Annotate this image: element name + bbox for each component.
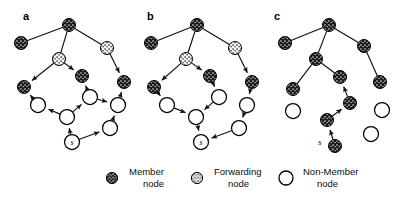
nonmember-node bbox=[232, 121, 247, 136]
edge bbox=[73, 105, 81, 112]
edge bbox=[203, 29, 229, 45]
edge bbox=[61, 32, 67, 52]
edge bbox=[192, 63, 201, 70]
nonmember-node bbox=[212, 90, 227, 105]
source-node-label: s bbox=[199, 138, 202, 147]
edge bbox=[212, 131, 231, 138]
edge bbox=[31, 95, 33, 98]
member-node bbox=[148, 81, 161, 94]
nonmember-node bbox=[60, 110, 75, 125]
member-node bbox=[287, 83, 300, 96]
edge bbox=[162, 64, 181, 80]
member-node bbox=[76, 70, 89, 83]
edge bbox=[113, 116, 114, 120]
edge bbox=[86, 86, 87, 89]
panel-b-nodes: s bbox=[145, 19, 259, 150]
panel-c: sc bbox=[274, 10, 390, 153]
nonmember-node bbox=[83, 90, 98, 105]
edge bbox=[333, 109, 342, 115]
edge bbox=[120, 92, 121, 97]
nonmember-node bbox=[31, 98, 46, 113]
panel-a: sa bbox=[15, 10, 131, 150]
member-node bbox=[344, 97, 357, 110]
legend: MembernodeForwardingnodeNon-Membernode bbox=[0, 163, 403, 202]
edge bbox=[330, 130, 333, 139]
legend-label-line2: node bbox=[317, 178, 338, 189]
nonmember-node bbox=[160, 98, 175, 113]
forwarding-node bbox=[101, 42, 114, 55]
edge bbox=[292, 28, 323, 41]
member-node bbox=[279, 37, 292, 50]
member-node bbox=[15, 37, 28, 50]
member-node bbox=[191, 19, 204, 32]
panel-b: sb bbox=[145, 10, 259, 150]
edge bbox=[238, 54, 247, 72]
forwarding-node bbox=[229, 42, 242, 55]
panel-a-nodes: s bbox=[15, 19, 131, 150]
member-node bbox=[358, 40, 371, 53]
legend-graphics: MembernodeForwardingnodeNon-Membernode bbox=[0, 163, 403, 202]
member-node bbox=[18, 81, 31, 94]
edge bbox=[213, 83, 215, 87]
member-node bbox=[334, 71, 347, 84]
figure-root: sasbsc MembernodeForwardingnodeNon-Membe… bbox=[0, 0, 403, 202]
legend-item-member-node: Membernode bbox=[106, 166, 164, 189]
nonmember-node bbox=[111, 98, 126, 113]
nonmember-node bbox=[375, 103, 390, 118]
legend-label-line1: Non-Member bbox=[303, 166, 358, 177]
nonmember-node-icon bbox=[279, 171, 293, 185]
nonmember-node bbox=[240, 98, 255, 113]
edge bbox=[49, 109, 60, 113]
edge bbox=[243, 113, 244, 117]
edge bbox=[69, 128, 70, 134]
edge bbox=[158, 28, 191, 41]
edge bbox=[249, 89, 250, 94]
member-node bbox=[323, 19, 336, 32]
forwarding-node bbox=[53, 53, 66, 66]
edge bbox=[158, 93, 160, 96]
panel-letter-b: b bbox=[147, 10, 154, 22]
member-node bbox=[321, 114, 334, 127]
member-node-icon bbox=[106, 172, 117, 183]
nonmember-node bbox=[189, 110, 204, 125]
legend-label-line1: Forwarding bbox=[214, 166, 262, 177]
edge bbox=[174, 108, 185, 112]
edge bbox=[32, 63, 53, 80]
legend-label-line1: Member bbox=[129, 166, 164, 177]
source-node-label: s bbox=[70, 138, 73, 147]
panels-diagram: sasbsc bbox=[0, 0, 403, 165]
member-node bbox=[145, 37, 158, 50]
legend-item-forwarding-node: Forwardingnode bbox=[191, 166, 261, 189]
edge bbox=[205, 102, 213, 109]
member-node bbox=[246, 76, 259, 89]
edge bbox=[344, 87, 348, 96]
nonmember-node bbox=[103, 121, 118, 136]
legend-item-nonmember-node: Non-Membernode bbox=[279, 166, 358, 189]
legend-label-line2: node bbox=[143, 178, 164, 189]
edge bbox=[80, 132, 99, 139]
nonmember-node bbox=[364, 127, 379, 142]
panel-letter-c: c bbox=[274, 10, 280, 22]
nonmember-node bbox=[286, 104, 301, 119]
edge bbox=[188, 32, 195, 52]
legend-label-line2: node bbox=[228, 178, 249, 189]
edge bbox=[110, 54, 119, 72]
forwarding-node bbox=[180, 53, 193, 66]
member-node bbox=[310, 53, 323, 66]
edge bbox=[335, 29, 358, 43]
member-node bbox=[329, 140, 342, 153]
edge bbox=[297, 65, 311, 84]
member-node bbox=[63, 19, 76, 32]
edge bbox=[198, 125, 199, 131]
source-node-label: s bbox=[318, 137, 322, 147]
edge bbox=[75, 29, 101, 45]
edge bbox=[319, 32, 327, 53]
panel-letter-a: a bbox=[23, 10, 30, 22]
member-node bbox=[374, 76, 387, 89]
edge bbox=[367, 52, 377, 75]
edge bbox=[322, 63, 335, 72]
member-node bbox=[204, 70, 217, 83]
member-node bbox=[118, 76, 131, 89]
edge bbox=[98, 99, 107, 102]
forwarding-node-icon bbox=[191, 172, 202, 183]
